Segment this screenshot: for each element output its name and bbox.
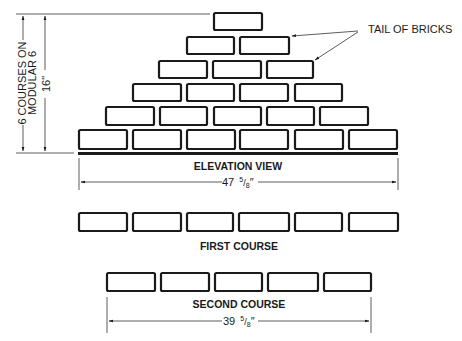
- brick: [161, 273, 209, 291]
- brick: [239, 213, 289, 231]
- brick: [79, 213, 127, 231]
- brick: [295, 213, 342, 231]
- brick: [267, 61, 313, 78]
- brick: [215, 273, 262, 291]
- brick: [160, 107, 207, 125]
- elevation-pyramid: [79, 13, 397, 149]
- second-course-label: SECOND COURSE: [193, 298, 286, 310]
- brick: [213, 61, 261, 78]
- first-course-label: FIRST COURSE: [200, 240, 278, 252]
- brick: [240, 84, 288, 101]
- brick: [133, 213, 181, 231]
- tail-of-bricks-callout: TAIL OF BRICKS: [292, 23, 452, 60]
- brick: [349, 130, 397, 149]
- elevation-view-label: ELEVATION VIEW: [194, 160, 282, 172]
- second-course-plan: [107, 273, 371, 291]
- brick: [133, 130, 181, 149]
- courses-label-line2: MODULAR 6: [26, 51, 38, 115]
- brick: [295, 84, 342, 101]
- brick: [187, 130, 235, 149]
- tail-of-bricks-label: TAIL OF BRICKS: [368, 23, 452, 35]
- brick: [267, 107, 314, 125]
- brick: [107, 273, 155, 291]
- brick-course-diagram: 6 COURSES ON MODULAR 6 16" TAIL OF BRICK…: [0, 0, 462, 341]
- brick: [349, 213, 398, 231]
- brick: [159, 61, 207, 78]
- brick: [240, 37, 289, 54]
- brick: [187, 37, 234, 54]
- brick: [187, 84, 234, 101]
- brick: [295, 130, 343, 149]
- elevation-width-label: 47 5/8″: [222, 176, 254, 189]
- height-label: 16": [40, 76, 52, 92]
- brick: [268, 273, 318, 291]
- brick: [214, 13, 262, 30]
- brick: [214, 107, 261, 125]
- brick: [320, 107, 368, 125]
- brick: [240, 130, 288, 149]
- brick: [106, 107, 154, 125]
- first-course-plan: [79, 213, 398, 231]
- brick: [187, 213, 233, 231]
- brick: [133, 84, 181, 101]
- second-width-label: 39 5/8″: [223, 315, 255, 328]
- brick: [79, 130, 127, 149]
- brick: [324, 273, 371, 291]
